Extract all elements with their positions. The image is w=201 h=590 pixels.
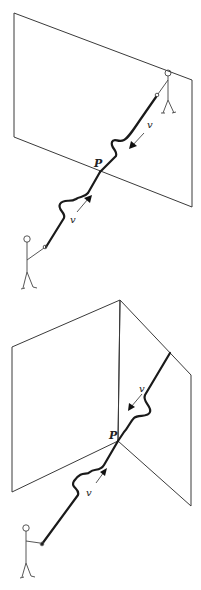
- stick-figure-far: [155, 70, 176, 113]
- stick-figure-near: [21, 236, 47, 289]
- velocity-arrow-shaft: [77, 199, 88, 212]
- panel-angled-boundary: v v P: [12, 300, 191, 578]
- rope-near-segment: [42, 441, 118, 544]
- velocity-label: v: [70, 214, 76, 225]
- head: [24, 236, 30, 242]
- velocity-arrow-shaft: [131, 394, 142, 407]
- diagram-canvas: v v P: [0, 0, 201, 590]
- boundary-plane: [14, 13, 192, 207]
- point-label: P: [93, 157, 103, 170]
- velocity-label: v: [139, 383, 145, 394]
- point-label: P: [108, 429, 118, 442]
- rope-far-segment: [118, 353, 170, 441]
- stick-figure-near: [20, 525, 44, 578]
- head: [23, 525, 29, 531]
- velocity-label: v: [147, 119, 153, 130]
- panel-flat-boundary: v v P: [14, 13, 192, 289]
- rope-near-segment: [46, 172, 100, 247]
- boundary-plane-right: [118, 300, 191, 506]
- rope-far-segment: [100, 97, 156, 172]
- velocity-label: v: [86, 487, 92, 498]
